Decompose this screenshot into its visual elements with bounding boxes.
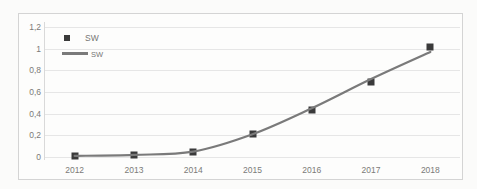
x-tick-label: 2016 bbox=[302, 166, 321, 175]
x-axis-tick-labels: 2012201320142015201620172018 bbox=[0, 166, 477, 180]
x-tick-label: 2014 bbox=[184, 166, 203, 175]
trend-line-layer bbox=[0, 0, 477, 189]
y-tick-label: 0,6 bbox=[29, 88, 41, 97]
legend-item-line-label: SW bbox=[91, 51, 103, 59]
legend-item-marker-label: SW bbox=[85, 34, 99, 43]
x-tick-label: 2013 bbox=[124, 166, 143, 175]
y-tick-label: 0,4 bbox=[29, 110, 41, 119]
y-tick-label: 0,8 bbox=[29, 66, 41, 75]
legend-square-marker-icon bbox=[64, 35, 70, 41]
x-tick-label: 2018 bbox=[421, 166, 440, 175]
legend-item-marker: SW bbox=[62, 31, 152, 46]
x-tick-label: 2015 bbox=[243, 166, 262, 175]
trend-line-path bbox=[75, 52, 431, 156]
chart-legend: SW SW bbox=[62, 31, 152, 61]
x-tick-label: 2012 bbox=[65, 166, 84, 175]
y-tick-label: 1,2 bbox=[29, 23, 41, 32]
y-tick-label: 0,2 bbox=[29, 131, 41, 140]
y-tick-label: 1 bbox=[36, 45, 41, 54]
legend-item-line: SW bbox=[62, 46, 152, 61]
y-axis-tick-labels: 00,20,40,60,811,2 bbox=[20, 0, 41, 189]
chart-figure: 00,20,40,60,811,2 2012201320142015201620… bbox=[0, 0, 477, 189]
legend-line-icon bbox=[62, 52, 88, 55]
x-tick-label: 2017 bbox=[362, 166, 381, 175]
y-tick-label: 0 bbox=[36, 153, 41, 162]
